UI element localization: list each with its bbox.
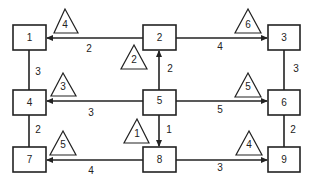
triangle-edge-2-3: 6 bbox=[235, 9, 261, 33]
node-7: 7 bbox=[13, 147, 46, 172]
node-7-label: 7 bbox=[27, 154, 33, 165]
svg-text:4: 4 bbox=[62, 19, 68, 30]
svg-text:4: 4 bbox=[246, 139, 252, 150]
node-8-label: 8 bbox=[157, 154, 163, 165]
svg-text:5: 5 bbox=[60, 139, 66, 150]
weight-5-6: 5 bbox=[217, 104, 223, 115]
weight-2-3: 4 bbox=[217, 41, 223, 52]
weight-2-1: 2 bbox=[86, 43, 92, 54]
weight-8-7: 4 bbox=[88, 165, 94, 176]
node-8: 8 bbox=[143, 147, 176, 172]
triangle-edge-5-4: 3 bbox=[51, 73, 76, 96]
weight-5-8: 1 bbox=[166, 124, 172, 135]
weight-1-4: 3 bbox=[35, 66, 41, 77]
triangle-edge-8-7: 5 bbox=[50, 131, 76, 155]
weight-5-4: 3 bbox=[88, 107, 94, 118]
weight-6-9: 2 bbox=[290, 124, 296, 135]
weight-4-7: 2 bbox=[35, 124, 41, 135]
svg-text:5: 5 bbox=[245, 81, 251, 92]
node-9-label: 9 bbox=[281, 154, 287, 165]
node-2: 2 bbox=[143, 25, 176, 50]
node-5: 5 bbox=[143, 90, 176, 115]
node-5-label: 5 bbox=[157, 95, 163, 106]
node-1-label: 1 bbox=[27, 32, 33, 43]
triangle-edge-5-6: 5 bbox=[235, 73, 261, 97]
node-4: 4 bbox=[13, 90, 46, 115]
triangle-edge-5-8: 1 bbox=[124, 119, 149, 143]
node-3-label: 3 bbox=[281, 32, 287, 43]
triangle-edge-8-9: 4 bbox=[236, 131, 262, 155]
svg-text:2: 2 bbox=[131, 54, 137, 65]
node-6: 6 bbox=[268, 90, 300, 115]
node-9: 9 bbox=[268, 147, 300, 172]
node-4-label: 4 bbox=[27, 97, 33, 108]
svg-text:3: 3 bbox=[60, 81, 66, 92]
weight-5-2: 2 bbox=[167, 63, 173, 74]
network-diagram: 1 2 3 4 5 6 7 8 9 2 4 3 3 2 3 5 1 2 2 4 … bbox=[0, 0, 312, 186]
node-2-label: 2 bbox=[157, 32, 163, 43]
weight-3-6: 3 bbox=[293, 63, 299, 74]
node-3: 3 bbox=[268, 25, 300, 50]
svg-text:6: 6 bbox=[245, 19, 251, 30]
triangle-edge-2-1: 4 bbox=[54, 9, 78, 33]
weight-8-9: 3 bbox=[217, 162, 223, 173]
node-6-label: 6 bbox=[281, 97, 287, 108]
svg-text:1: 1 bbox=[134, 128, 140, 139]
node-1: 1 bbox=[13, 25, 46, 50]
